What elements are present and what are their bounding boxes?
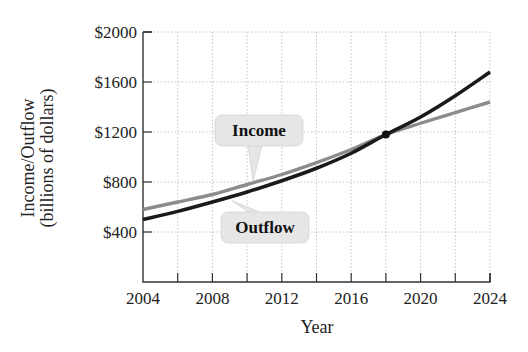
income-callout-label: Income (232, 121, 286, 140)
x-tick-label: 2008 (195, 289, 229, 308)
y-tick-label: $1600 (95, 73, 138, 92)
chart: $400$800$1200$1600$200020042008201220162… (0, 0, 528, 352)
axes (143, 32, 490, 282)
outflow-callout-pointer (232, 201, 262, 213)
outflow-callout-label: Outflow (235, 218, 295, 237)
x-tick-label: 2024 (473, 289, 508, 308)
y-tick-label: $2000 (95, 23, 138, 42)
y-tick-label: $1200 (95, 123, 138, 142)
intersection-point (382, 131, 390, 139)
y-axis-title-line2: (billions of dollars) (37, 89, 58, 228)
x-axis-title: Year (300, 317, 333, 337)
outflow-callout: Outflow (221, 201, 309, 243)
y-axis-title-line1: Income/Outflow (18, 99, 38, 218)
y-tick-label: $400 (103, 223, 137, 242)
grid-lines (143, 32, 490, 282)
income-callout-pointer (248, 145, 262, 181)
x-tick-label: 2020 (404, 289, 438, 308)
x-tick-label: 2012 (265, 289, 299, 308)
axis-ticks: $400$800$1200$1600$200020042008201220162… (95, 23, 508, 308)
axis-lines (143, 32, 490, 282)
x-tick-label: 2016 (334, 289, 368, 308)
y-tick-label: $800 (103, 173, 137, 192)
x-tick-label: 2004 (126, 289, 161, 308)
